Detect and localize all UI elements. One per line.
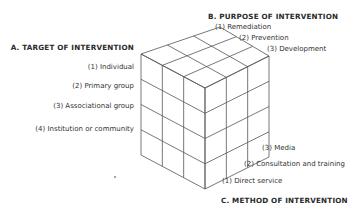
method-axis-title: C. METHOD OF INTERVENTION: [221, 196, 348, 205]
purpose-item-1: (1) Remediation: [215, 23, 271, 31]
target-item-3: (3) Associational group: [53, 102, 134, 110]
method-item-3: (3) Media: [262, 144, 295, 152]
purpose-item-2: (2) Prevention: [239, 34, 289, 42]
speck: [114, 176, 116, 178]
method-item-2: (2) Consultation and training: [244, 160, 345, 168]
target-item-4: (4) Institution or community: [35, 125, 134, 133]
target-item-2: (2) Primary group: [72, 82, 134, 90]
target-item-1: (1) Individual: [88, 63, 134, 71]
purpose-axis-title: B. PURPOSE OF INTERVENTION: [208, 12, 338, 21]
method-item-1: (1) Direct service: [222, 177, 282, 185]
target-axis-title: A. TARGET OF INTERVENTION: [11, 43, 134, 52]
purpose-item-3: (3) Development: [267, 45, 326, 53]
